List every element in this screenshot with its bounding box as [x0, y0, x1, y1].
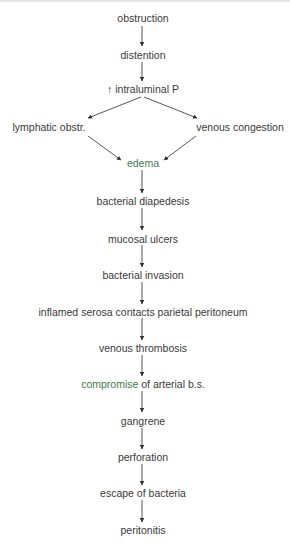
node-inflamed-serosa: inflamed serosa contacts parietal perito…	[39, 307, 248, 318]
node-label-rest: of arterial b.s.	[138, 378, 205, 390]
node-peritonitis: peritonitis	[121, 525, 166, 536]
node-venous-congestion: venous congestion	[196, 122, 284, 133]
node-intraluminal-pressure: ↑ intraluminal P	[107, 84, 179, 95]
up-arrow-icon: ↑	[107, 83, 112, 95]
node-gangrene: gangrene	[121, 416, 165, 427]
arrow-intraluminal-lymphatic	[88, 97, 141, 118]
node-escape-of-bacteria: escape of bacteria	[100, 488, 186, 499]
node-distention: distention	[121, 50, 166, 61]
node-label: intraluminal P	[115, 83, 179, 95]
arrow-intraluminal-venous	[144, 97, 197, 118]
node-mucosal-ulcers: mucosal ulcers	[108, 234, 178, 245]
node-edema: edema	[127, 158, 159, 169]
node-compromise-arterial: compromise of arterial b.s.	[81, 379, 205, 390]
node-obstruction: obstruction	[117, 13, 168, 24]
node-venous-thrombosis: venous thrombosis	[99, 343, 187, 354]
arrow-venous-edema	[164, 136, 196, 160]
node-bacterial-diapedesis: bacterial diapedesis	[97, 196, 190, 207]
node-lymphatic-obstruction: lymphatic obstr.	[13, 122, 86, 133]
node-label-accent: compromise	[81, 378, 138, 390]
flowchart-canvas: obstruction distention ↑ intraluminal P …	[0, 0, 290, 549]
arrow-lymphatic-edema	[88, 136, 121, 160]
node-bacterial-invasion: bacterial invasion	[102, 270, 183, 281]
node-perforation: perforation	[118, 452, 168, 463]
